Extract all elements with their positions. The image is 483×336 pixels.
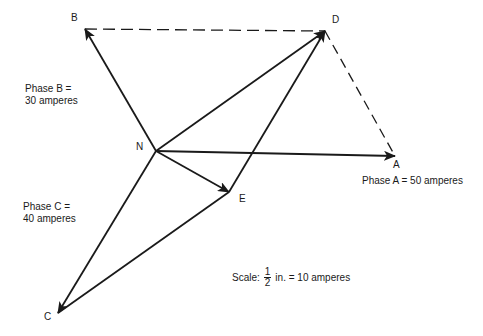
phase-b-line2: 30 amperes <box>25 95 78 107</box>
point-label-c: C <box>44 311 51 322</box>
vector-n-b <box>85 29 156 151</box>
scale-suffix: in. = 10 amperes <box>275 272 350 283</box>
phase-c-label: Phase C = 40 amperes <box>23 201 76 225</box>
point-label-n: N <box>136 141 143 152</box>
phase-b-label: Phase B = 30 amperes <box>25 83 78 107</box>
dashed-line-b-d <box>85 29 325 31</box>
phase-a-label: Phase A = 50 amperes <box>362 175 463 187</box>
point-label-b: B <box>71 12 78 23</box>
scale-denominator: 2 <box>264 278 272 288</box>
point-label-d: D <box>332 14 339 25</box>
vector-n-e <box>156 151 229 192</box>
vector-n-d <box>156 31 325 151</box>
vector-n-a <box>156 151 395 156</box>
point-label-a: A <box>393 159 400 170</box>
phase-b-line1: Phase B = <box>25 83 78 95</box>
line-c-e <box>58 192 229 313</box>
phase-c-line2: 40 amperes <box>23 213 76 225</box>
scale-prefix: Scale: <box>232 272 260 283</box>
vector-e-d <box>229 31 325 192</box>
scale-label: Scale:12in. = 10 amperes <box>232 267 350 288</box>
scale-fraction: 12 <box>264 267 272 288</box>
phase-c-line1: Phase C = <box>23 201 76 213</box>
point-label-e: E <box>239 193 246 204</box>
dashed-line-d-a <box>325 31 395 156</box>
vector-n-c <box>58 151 156 313</box>
